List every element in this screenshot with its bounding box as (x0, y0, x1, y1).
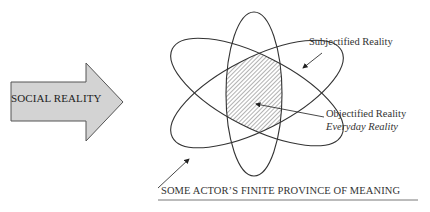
objectified-reality-region (150, 0, 370, 212)
everyday-reality-label: Everyday Reality (326, 121, 398, 132)
subjectified-reality-label: Subjectified Reality (309, 36, 393, 47)
objectified-reality-label: Objectified Reality (326, 108, 406, 119)
province-pointer (158, 159, 189, 188)
social-reality-label: SOCIAL REALITY (11, 92, 102, 104)
diagram-canvas (0, 0, 430, 212)
province-of-meaning-caption: SOME ACTOR’S FINITE PROVINCE OF MEANING (161, 185, 400, 196)
subjectified-pointer (303, 53, 322, 68)
